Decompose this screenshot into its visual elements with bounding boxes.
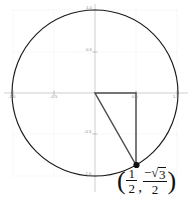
x-denominator: 2 (127, 181, 136, 195)
x-tick-label-1: 1.0 (173, 95, 179, 99)
x-tick-label-0-5: 0.5 (132, 95, 138, 99)
radicand: 3 (158, 167, 166, 181)
y-tick-label-neg-1: -1.0 (84, 172, 91, 176)
y-coordinate-fraction: −√3 2 (143, 166, 167, 196)
x-numerator: 1 (127, 167, 136, 181)
reference-triangle (95, 93, 136, 165)
unit-circle-figure: -1.0 -0.5 0.5 1.0 1.0 0.5 -0.5 -1.0 ( 1 … (0, 0, 191, 198)
square-root-icon: √3 (151, 166, 166, 181)
x-tick-label-neg-1: -1.0 (8, 95, 15, 99)
y-numerator: −√3 (143, 166, 167, 181)
x-coordinate-fraction: 1 2 (126, 167, 137, 195)
open-paren: ( (117, 170, 126, 190)
x-tick-label-neg-0-5: -0.5 (50, 95, 57, 99)
coordinate-comma: , (138, 180, 143, 196)
axes (4, 4, 188, 192)
minus-sign: − (144, 165, 151, 180)
y-denominator: 2 (151, 182, 160, 196)
y-tick-label-1: 1.0 (86, 6, 92, 10)
y-tick-label-neg-0-5: -0.5 (84, 130, 91, 134)
terminal-point-coordinates: ( 1 2 , −√3 2 ) (117, 166, 176, 196)
y-tick-label-0-5: 0.5 (86, 48, 92, 52)
close-paren: ) (167, 170, 176, 190)
